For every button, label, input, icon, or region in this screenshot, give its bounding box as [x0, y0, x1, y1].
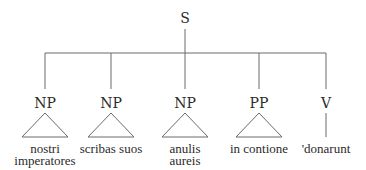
leaf-text: imperatores: [14, 153, 75, 168]
triangle-icon: [236, 113, 282, 137]
node-v: V: [320, 95, 332, 111]
node-np: NP: [34, 95, 56, 111]
leaf-text: aureis: [169, 153, 200, 168]
triangle-icon: [88, 113, 134, 137]
triangle-icon: [22, 113, 68, 137]
branch-pp: PP in contione: [230, 53, 288, 156]
leaf-text: 'donarunt: [302, 141, 351, 156]
node-pp: PP: [250, 95, 269, 111]
leaf-text: in contione: [230, 141, 288, 156]
node-np: NP: [100, 95, 122, 111]
node-s: S: [180, 10, 190, 26]
syntax-tree: S NP nostri imperatores NP scribas suos …: [0, 0, 366, 170]
triangle-icon: [162, 113, 208, 137]
branch-np-1: NP nostri imperatores: [14, 53, 75, 168]
branch-np-2: NP scribas suos: [80, 53, 142, 156]
branch-np-3: NP anulis aureis: [162, 53, 208, 168]
node-np: NP: [174, 95, 196, 111]
leaf-text: scribas suos: [80, 141, 142, 156]
branch-v: V 'donarunt: [302, 53, 351, 156]
